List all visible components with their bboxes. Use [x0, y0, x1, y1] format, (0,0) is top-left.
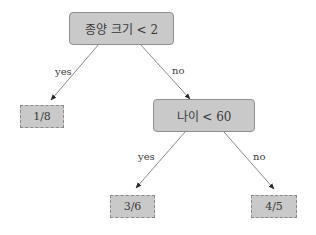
root-decision-node: 종양 크기 < 2: [69, 12, 174, 45]
edge-label-root-no: no: [172, 66, 184, 76]
leaf-mid-label: 3/6: [124, 200, 142, 213]
leaf-node-mid: 3/6: [110, 195, 155, 218]
leaf-node-right: 4/5: [251, 195, 297, 218]
leaf-left-label: 1/8: [33, 110, 51, 123]
edge-label-age-yes: yes: [138, 152, 155, 162]
leaf-node-left: 1/8: [20, 105, 64, 128]
age-node-label: 나이 < 60: [177, 107, 232, 124]
edge-age-to-leaf-right: [224, 132, 274, 189]
edge-label-root-yes: yes: [55, 67, 72, 77]
decision-tree: 종양 크기 < 2 1/8 나이 < 60 3/6 4/5 yes no yes…: [0, 0, 316, 235]
leaf-right-label: 4/5: [265, 200, 283, 213]
edge-label-age-no: no: [253, 152, 265, 162]
age-decision-node: 나이 < 60: [153, 99, 255, 132]
root-node-label: 종양 크기 < 2: [85, 20, 158, 37]
